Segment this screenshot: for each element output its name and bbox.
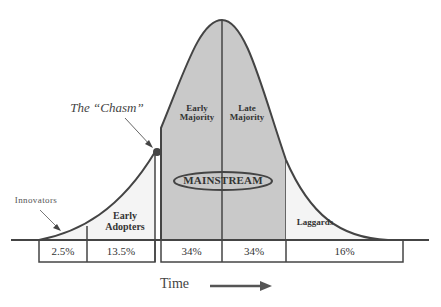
late-majority-percent: 34%: [222, 240, 286, 262]
early-adopters-percent: 13.5%: [87, 240, 155, 262]
innovators-arrow: [40, 210, 58, 228]
laggards-percent: 16%: [286, 240, 403, 262]
early-majority-label: Early Majority: [174, 104, 220, 123]
laggards-area: [286, 160, 388, 240]
mainstream-area: [161, 20, 286, 240]
mainstream-label: MAINSTREAM: [176, 175, 270, 187]
time-axis-label: Time: [160, 277, 206, 292]
chasm-dot: [153, 148, 161, 156]
late-majority-label: Late Majority: [224, 104, 270, 123]
laggards-label: Laggards: [290, 218, 340, 227]
early-adopters-label: Early Adopters: [96, 211, 154, 232]
chasm-label: The “Chasm”: [62, 101, 152, 115]
innovators-percent: 2.5%: [39, 240, 87, 262]
early-majority-percent: 34%: [161, 240, 222, 262]
innovators-label: Innovators: [6, 196, 66, 205]
chasm-arrow: [125, 118, 151, 146]
